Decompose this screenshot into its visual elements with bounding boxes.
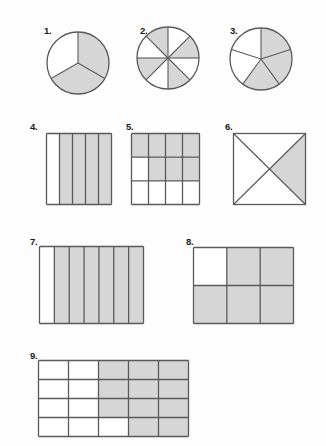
figure-9-cell-r1c1-unshaded [38,360,68,379]
figure-5-cell-r1c2-shaded [148,133,165,157]
figure-label-7: 7. [30,237,38,247]
figure-label-4: 4. [30,122,38,132]
figure-9-cell-r2c5-shaded [158,379,188,398]
figure-7-cell-r1c7-shaded [128,246,143,323]
figure-8-cell-r1c3-shaded [260,247,293,285]
figure-7-cell-r1c1-unshaded [39,246,54,323]
figure-1-circle [45,30,111,96]
figure-7-cell-r1c2-shaded [54,246,69,323]
figure-9-cell-r2c2-unshaded [68,379,98,398]
figure-9-cell-r4c3-unshaded [98,417,128,436]
figure-8-cell-r1c1-unshaded [193,247,226,285]
figure-9-cell-r4c4-shaded [128,417,158,436]
figure-9-cell-r3c1-unshaded [38,398,68,417]
figure-4-grid [45,132,113,206]
figure-9-cell-r4c5-shaded [158,417,188,436]
figure-7-grid [38,245,145,325]
figure-8-cell-r2c1-shaded [193,285,226,323]
figure-5-cell-r3c2-unshaded [148,180,165,204]
figure-9-cell-r4c1-unshaded [38,417,68,436]
figure-7-cell-r1c4-shaded [84,246,99,323]
figure-5-cell-r1c1-shaded [131,133,148,157]
figure-9-cell-r2c3-shaded [98,379,128,398]
figure-8-grid [192,246,295,325]
figure-5-cell-r1c4-shaded [182,133,199,157]
figure-4-cell-r1c1-unshaded [46,133,59,204]
fraction-worksheet: 1.2.3.4.5.6.7.8.9. [0,0,326,446]
figure-4-cell-r1c5-shaded [98,133,111,204]
figure-2-circle [135,25,201,91]
figure-9-grid [37,359,190,438]
figure-9-cell-r1c5-shaded [158,360,188,379]
figure-5-cell-r3c3-unshaded [165,180,182,204]
figure-5-cell-r3c1-unshaded [131,180,148,204]
figure-7-cell-r1c3-shaded [69,246,84,323]
figure-9-cell-r1c2-unshaded [68,360,98,379]
figure-9-cell-r1c4-shaded [128,360,158,379]
figure-9-cell-r2c1-unshaded [38,379,68,398]
figure-4-cell-r1c2-shaded [59,133,72,204]
figure-7-cell-r1c6-shaded [113,246,128,323]
figure-3-circle [228,26,294,92]
figure-5-cell-r1c3-shaded [165,133,182,157]
figure-7-cell-r1c5-shaded [98,246,113,323]
figure-4-cell-r1c3-shaded [72,133,85,204]
figure-9-cell-r4c2-unshaded [68,417,98,436]
figure-9-cell-r1c3-shaded [98,360,128,379]
figure-5-cell-r2c3-shaded [165,157,182,181]
figure-5-grid [130,132,201,206]
figure-9-cell-r3c4-shaded [128,398,158,417]
figure-9-cell-r3c2-unshaded [68,398,98,417]
figure-9-cell-r2c4-shaded [128,379,158,398]
figure-5-cell-r3c4-unshaded [182,180,199,204]
figure-6-square-diagonals [232,132,307,206]
figure-8-cell-r2c3-shaded [260,285,293,323]
figure-8-cell-r2c2-shaded [226,285,259,323]
figure-label-5: 5. [126,122,134,132]
figure-label-6: 6. [225,122,233,132]
figure-5-cell-r2c2-shaded [148,157,165,181]
figure-5-cell-r2c1-unshaded [131,157,148,181]
figure-8-cell-r1c2-shaded [226,247,259,285]
figure-9-cell-r3c5-shaded [158,398,188,417]
figure-5-cell-r2c4-shaded [182,157,199,181]
figure-9-cell-r3c3-shaded [98,398,128,417]
figure-4-cell-r1c4-shaded [85,133,98,204]
